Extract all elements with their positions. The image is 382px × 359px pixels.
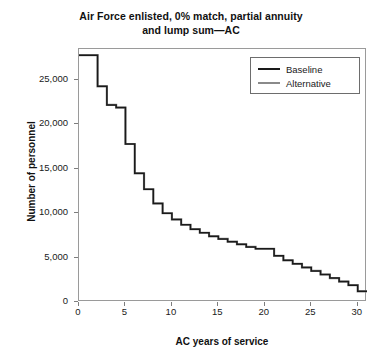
x-axis-tick-mark — [357, 302, 358, 306]
x-axis-tick-mark — [171, 302, 172, 306]
x-axis-tick-label: 20 — [244, 306, 284, 317]
legend-item-alternative: Alternative — [258, 76, 359, 90]
x-axis-title: AC years of service — [78, 336, 366, 347]
x-axis-tick-label: 30 — [337, 306, 377, 317]
y-axis-tick-label: 20,000 — [12, 118, 68, 128]
x-axis-tick-label: 15 — [197, 306, 237, 317]
x-axis-tick-label: 10 — [151, 306, 191, 317]
x-axis-tick-label: 5 — [104, 306, 144, 317]
x-axis-tick-mark — [124, 302, 125, 306]
legend-label: Baseline — [286, 64, 322, 75]
legend-swatch-alternative — [258, 82, 280, 84]
y-axis-tick-label: 5,000 — [12, 252, 68, 262]
chart-title-line-2: and lump sum—AC — [0, 23, 382, 37]
x-axis-tick-mark — [310, 302, 311, 306]
legend-swatch-baseline — [258, 68, 280, 70]
y-axis-tick-label: 15,000 — [12, 163, 68, 173]
y-axis-tick-label: 25,000 — [12, 74, 68, 84]
x-axis-tick-label: 25 — [290, 306, 330, 317]
y-axis-tick-label: 10,000 — [12, 207, 68, 217]
legend-label: Alternative — [286, 78, 331, 89]
chart-legend: BaselineAlternative — [250, 57, 360, 94]
y-axis-tick-label: 0 — [12, 296, 68, 306]
x-axis-tick-mark — [78, 302, 79, 306]
x-axis-tick-mark — [264, 302, 265, 306]
chart-title: Air Force enlisted, 0% match, partial an… — [0, 9, 382, 37]
chart-figure: Air Force enlisted, 0% match, partial an… — [0, 0, 382, 359]
legend-item-baseline: Baseline — [258, 62, 359, 76]
x-axis-tick-label: 0 — [58, 306, 98, 317]
chart-title-line-1: Air Force enlisted, 0% match, partial an… — [79, 10, 302, 22]
x-axis-tick-mark — [217, 302, 218, 306]
